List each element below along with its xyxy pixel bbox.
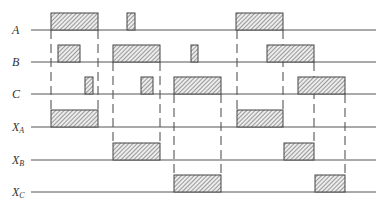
signal-pulse <box>174 77 221 94</box>
signal-pulse <box>298 77 345 94</box>
signal-pulse <box>236 13 283 30</box>
signal-pulse <box>58 45 80 62</box>
signal-pulse <box>191 45 198 62</box>
signal-pulse <box>113 45 160 62</box>
signal-rows: ABCXAXBXC <box>11 13 376 200</box>
signal-pulse <box>127 13 135 30</box>
signal-label: B <box>12 55 20 69</box>
signal-label: C <box>12 87 21 101</box>
signal-pulse <box>174 175 221 192</box>
signal-row-c: C <box>12 77 376 101</box>
signal-pulse <box>237 110 283 127</box>
signal-pulse <box>113 143 160 160</box>
signal-pulse <box>315 175 345 192</box>
signal-pulse <box>141 77 153 94</box>
signal-pulse <box>51 110 98 127</box>
signal-label: XC <box>11 185 25 200</box>
signal-label: XB <box>11 153 24 168</box>
timing-diagram: ABCXAXBXC <box>0 0 389 207</box>
signal-pulse <box>51 13 98 30</box>
signal-label: A <box>11 23 20 37</box>
signal-row-xc: XC <box>11 175 376 200</box>
signal-row-xa: XA <box>11 110 376 135</box>
signal-pulse <box>267 45 314 62</box>
signal-label: XA <box>11 120 24 135</box>
signal-row-a: A <box>11 13 376 37</box>
signal-pulse <box>85 77 93 94</box>
signal-row-b: B <box>12 45 376 69</box>
signal-pulse <box>284 143 314 160</box>
signal-row-xb: XB <box>11 143 376 168</box>
